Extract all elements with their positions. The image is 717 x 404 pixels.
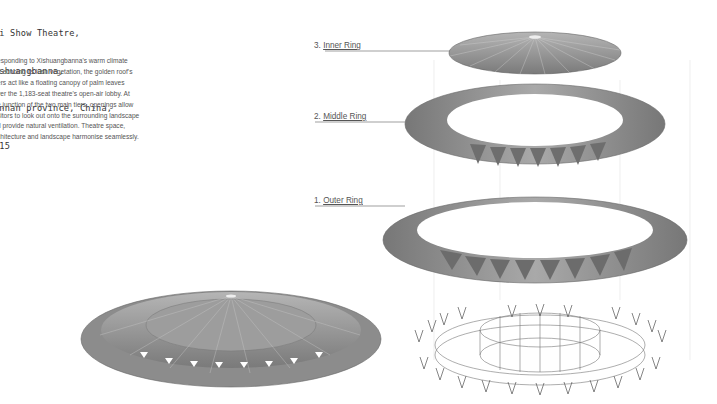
middle-ring xyxy=(405,84,665,167)
label-outer-ring: 1. Outer Ring xyxy=(314,196,363,205)
inner-ring xyxy=(449,32,621,74)
assembled-roof xyxy=(81,291,381,387)
label-middle-ring: 2. Middle Ring xyxy=(314,112,366,121)
structure-wireframe xyxy=(415,304,666,395)
label-inner-ring: 3. Inner Ring xyxy=(314,41,361,50)
outer-ring xyxy=(383,197,687,283)
